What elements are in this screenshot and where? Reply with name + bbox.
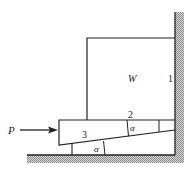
label-force-p: P [7,124,15,136]
label-block-w: W [128,73,138,84]
label-contact-1: 1 [168,73,173,84]
wall-hatching [175,12,184,163]
floor-hatching [27,155,184,163]
label-wedge-3: 3 [82,129,87,140]
angle-marker-upper [127,120,129,136]
wedge-diagram: P W 1 2 3 α α [0,0,193,170]
label-angle-upper: α [130,123,135,133]
upper-wedge [59,120,175,145]
label-angle-lower: α [94,144,99,154]
label-contact-2: 2 [128,109,133,120]
angle-marker-lower [104,141,106,155]
